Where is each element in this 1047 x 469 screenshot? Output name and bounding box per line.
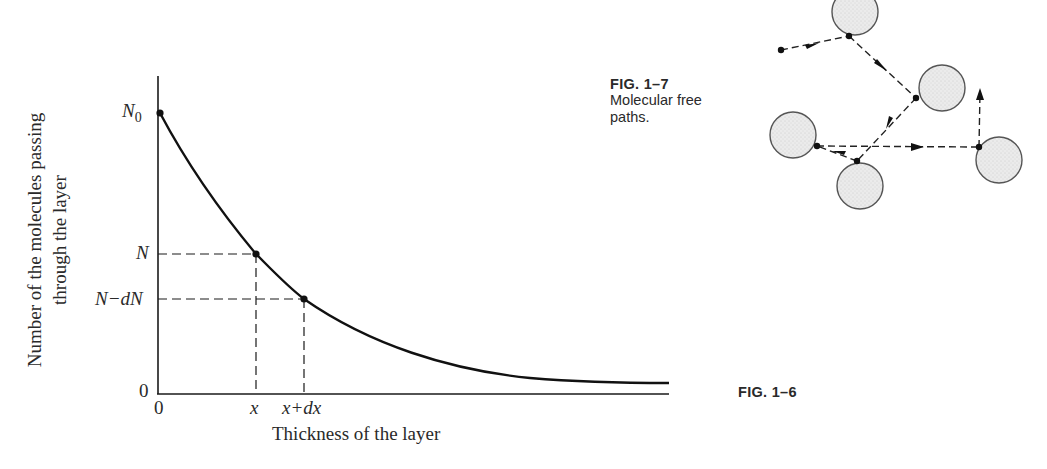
molecule-bottom xyxy=(837,163,883,209)
collision-point xyxy=(976,144,982,150)
x-axis-label: Thickness of the layer xyxy=(272,423,440,445)
path-segment-5 xyxy=(817,146,979,147)
molecule-upper-right xyxy=(919,65,965,111)
figure-1-7-caption-line-2: paths. xyxy=(610,109,702,126)
point-N0 xyxy=(156,109,163,116)
x-tick-x-plus-dx: x+dx xyxy=(282,397,321,419)
collision-point xyxy=(814,143,820,149)
y-axis-label-line-2: through the layer xyxy=(47,113,72,367)
y-tick-N0: N0 xyxy=(122,100,142,126)
x-tick-zero: 0 xyxy=(154,397,164,419)
arrow-icon xyxy=(911,143,924,151)
figure-1-6-label: FIG. 1–6 xyxy=(738,384,797,400)
path-segment-1 xyxy=(781,36,849,50)
collision-point xyxy=(846,33,852,39)
arrow-icon xyxy=(874,59,887,71)
molecule-lower-right xyxy=(976,137,1022,183)
molecules xyxy=(770,0,1022,209)
arrow-icon xyxy=(976,88,984,100)
y-axis-label-line-1: Number of the molecules passing xyxy=(22,113,47,367)
figure-1-7-caption-line-1: Molecular free xyxy=(610,92,702,109)
path-segment-4 xyxy=(817,146,857,161)
path-segment-3 xyxy=(857,98,916,161)
point-N xyxy=(252,250,259,257)
decay-curve xyxy=(160,113,669,383)
path-segment-6 xyxy=(979,92,980,147)
y-tick-N: N xyxy=(136,242,149,264)
y-axis-label: Number of the molecules passing through … xyxy=(22,113,72,367)
figure-1-7-caption-block: FIG. 1–7 Molecular free paths. xyxy=(610,76,702,126)
start-point xyxy=(778,47,784,53)
y-tick-zero: 0 xyxy=(139,380,149,402)
y-tick-N-minus-dN: N−dN xyxy=(95,288,143,310)
molecule-top xyxy=(832,0,878,35)
molecule-left xyxy=(770,112,816,158)
y-tick-N0-subscript: 0 xyxy=(135,110,142,125)
arrow-icon xyxy=(805,43,819,49)
point-N-dN xyxy=(300,295,307,302)
x-tick-x: x xyxy=(250,397,258,419)
collision-point xyxy=(854,158,860,164)
figure-1-7-label: FIG. 1–7 xyxy=(610,76,702,92)
y-tick-N0-base: N xyxy=(122,100,135,121)
collision-point xyxy=(913,95,919,101)
